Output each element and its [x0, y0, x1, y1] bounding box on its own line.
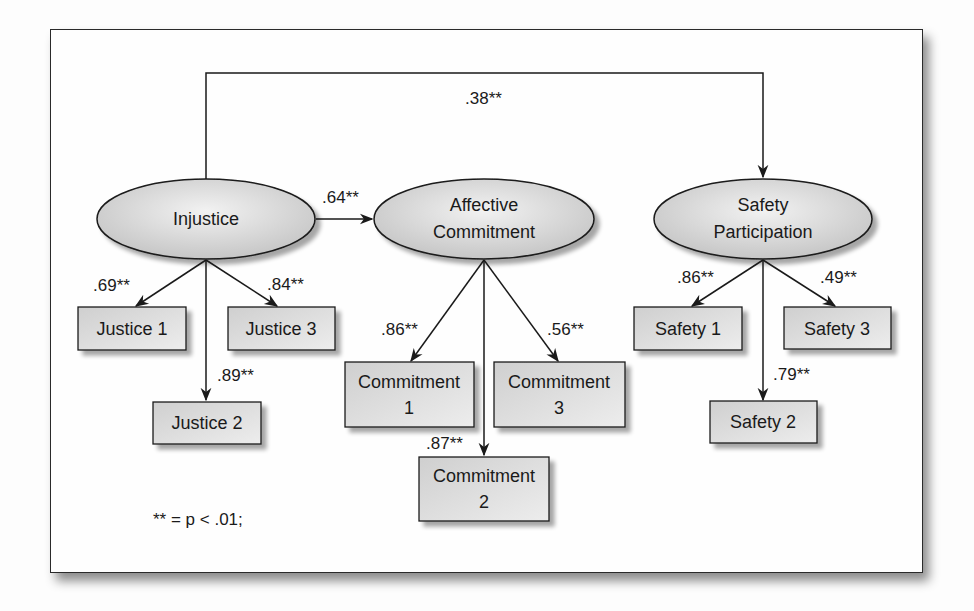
label-commitment-1-line2: 1: [404, 398, 414, 418]
label-safety-2: Safety 2: [730, 412, 796, 432]
label-justice-3: Justice 3: [245, 319, 316, 339]
label-commitment-2-line1: Commitment: [433, 466, 535, 486]
label-safety: Safety: [737, 195, 788, 215]
latent-safety-participation: [654, 179, 872, 259]
coef-justice-3: .84**: [267, 275, 304, 294]
label-commitment-1-line1: Commitment: [358, 372, 460, 392]
coef-commitment-1: .86**: [381, 320, 418, 339]
coef-safety-1: .86**: [677, 268, 714, 287]
sem-diagram: .38** .64** Injustice Affective Commitme…: [0, 0, 974, 611]
label-safety-3: Safety 3: [804, 319, 870, 339]
path-justice-1: [136, 260, 206, 306]
significance-note: ** = p < .01;: [153, 510, 243, 529]
coef-justice-1: .69**: [93, 276, 130, 295]
label-commitment-2-line2: 2: [479, 492, 489, 512]
path-commitment-3: [484, 260, 558, 361]
label-participation: Participation: [713, 222, 812, 242]
coef-commitment-2: .87**: [426, 434, 463, 453]
coef-justice-2: .89**: [217, 366, 254, 385]
label-injustice: Injustice: [173, 209, 239, 229]
label-safety-1: Safety 1: [655, 319, 721, 339]
label-affective: Affective: [450, 195, 519, 215]
coef-commitment-3: .56**: [547, 320, 584, 339]
latent-affective-commitment: [374, 179, 594, 259]
label-commitment: Commitment: [433, 222, 535, 242]
path-commitment-1: [411, 260, 484, 361]
label-commitment-3-line1: Commitment: [508, 372, 610, 392]
label-commitment-3-line2: 3: [554, 398, 564, 418]
coef-injustice-safety: .38**: [465, 89, 502, 108]
coef-injustice-commitment: .64**: [322, 188, 359, 207]
coef-safety-2: .79**: [773, 365, 810, 384]
coef-safety-3: .49**: [820, 268, 857, 287]
label-justice-1: Justice 1: [96, 319, 167, 339]
label-justice-2: Justice 2: [171, 413, 242, 433]
